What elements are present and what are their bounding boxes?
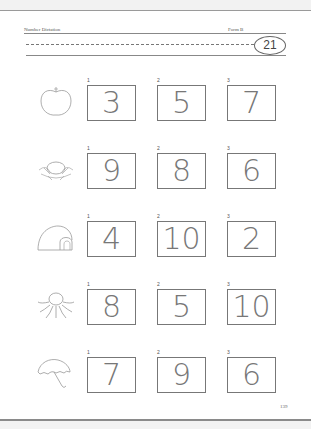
- apple-icon: [36, 86, 76, 118]
- answer-cell: 1 7: [87, 353, 137, 395]
- lesson-number-badge: 21: [254, 36, 286, 55]
- item-number: 1: [87, 145, 90, 151]
- worksheet-row: 1 9 2 8 3 6: [0, 149, 311, 199]
- item-number: 2: [157, 145, 160, 151]
- worksheet-row: 1 3 2 5 3 7: [0, 81, 311, 131]
- worksheet-row: 1 8 2 5 3 10: [0, 285, 311, 335]
- item-number: 3: [227, 213, 230, 219]
- igloo-icon: [36, 222, 76, 254]
- umbrella-icon: [36, 358, 76, 390]
- number-box: 4: [87, 221, 136, 257]
- number-box: 7: [227, 85, 276, 121]
- number-box: 2: [227, 221, 276, 257]
- item-number: 2: [157, 349, 160, 355]
- answer-cell: 3 10: [227, 285, 277, 327]
- number-box: 10: [157, 221, 206, 257]
- answer-cell: 2 8: [157, 149, 207, 191]
- item-number: 3: [227, 77, 230, 83]
- answer-cell: 3 7: [227, 81, 277, 123]
- number-box: 3: [87, 85, 136, 121]
- item-number: 2: [157, 213, 160, 219]
- page-number: 139: [280, 404, 288, 409]
- worksheet-title: Number Dictation: [24, 27, 60, 32]
- form-label: Form B: [228, 27, 243, 32]
- answer-cell: 1 3: [87, 81, 137, 123]
- number-box: 8: [157, 153, 206, 189]
- answer-cell: 3 6: [227, 353, 277, 395]
- item-number: 3: [227, 281, 230, 287]
- answer-cell: 3 2: [227, 217, 277, 259]
- item-number: 3: [227, 145, 230, 151]
- answer-cell: 1 4: [87, 217, 137, 259]
- item-number: 1: [87, 213, 90, 219]
- worksheet-row: 1 7 2 9 3 6: [0, 353, 311, 403]
- item-number: 1: [87, 349, 90, 355]
- name-dashed-line: [26, 44, 254, 45]
- header-bottom-rule: [26, 55, 286, 56]
- answer-cell: 2 5: [157, 81, 207, 123]
- octopus-icon: [36, 290, 76, 322]
- number-box: 5: [157, 289, 206, 325]
- answer-cell: 3 6: [227, 149, 277, 191]
- number-box: 7: [87, 357, 136, 393]
- worksheet-page: Number Dictation Form B 21 1 3 2 5 3 7: [0, 10, 311, 421]
- number-box: 9: [157, 357, 206, 393]
- item-number: 1: [87, 77, 90, 83]
- answer-cell: 2 9: [157, 353, 207, 395]
- number-box: 10: [227, 289, 276, 325]
- worksheet-row: 1 4 2 10 3 2: [0, 217, 311, 267]
- item-number: 2: [157, 77, 160, 83]
- item-number: 1: [87, 281, 90, 287]
- answer-cell: 1 8: [87, 285, 137, 327]
- answer-cell: 2 10: [157, 217, 207, 259]
- number-box: 5: [157, 85, 206, 121]
- number-box: 8: [87, 289, 136, 325]
- header-rule: [24, 33, 286, 34]
- number-box: 6: [227, 357, 276, 393]
- item-number: 2: [157, 281, 160, 287]
- nest-icon: [36, 154, 76, 186]
- number-box: 6: [227, 153, 276, 189]
- answer-cell: 2 5: [157, 285, 207, 327]
- number-box: 9: [87, 153, 136, 189]
- answer-cell: 1 9: [87, 149, 137, 191]
- item-number: 3: [227, 349, 230, 355]
